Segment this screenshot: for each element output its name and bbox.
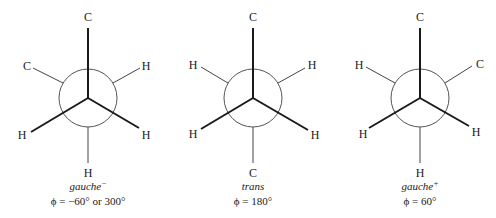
back-bond-upper-right [278,68,305,83]
atom-label-lower-left: H [18,128,27,142]
atom-label-lower-right: H [472,125,481,139]
atom-label-bottom: C [249,166,257,180]
back-bond-upper-left [366,67,395,83]
conformation-name-sign: − [101,179,106,188]
conformation-name-text: gauche [401,180,433,192]
atom-label-lower-left: H [189,127,198,141]
conformation-name-text: gauche [69,180,101,192]
back-bond-upper-left [33,68,63,83]
atom-label-upper-right: C [476,57,484,71]
newman-projection-gauche-minus: C C H H H H gauche− ϕ = −60° or 300° [18,10,151,207]
front-bond-lower-right [88,98,139,128]
atom-label-upper-right: H [142,59,151,73]
dihedral-angle-label: ϕ = −60° or 300° [51,195,126,207]
conformation-name-sign: + [433,179,438,188]
conformation-name: trans [242,180,265,192]
atom-label-lower-right: H [311,128,320,142]
conformation-name: gauche− [69,179,106,192]
conformation-name-text: trans [242,180,265,192]
atom-label-upper-left: H [355,58,364,72]
front-bond-lower-left [369,98,420,128]
atom-label-upper-right: H [308,58,317,72]
atom-label-lower-left: H [359,127,368,141]
dihedral-angle-label: ϕ = 60° [404,195,437,207]
atom-label-upper-left: H [189,58,198,72]
dihedral-angle-label: ϕ = 180° [234,195,272,207]
atom-label-upper-left: C [23,59,31,73]
atom-label-top: C [249,10,257,24]
back-bond-upper-right [445,66,472,83]
conformation-name: gauche+ [401,179,438,192]
back-bond-upper-right [113,68,140,83]
atom-label-top: C [416,10,424,24]
newman-projection-trans: C H H H H C trans ϕ = 180° [189,10,320,207]
back-bond-upper-left [201,67,228,83]
front-bond-lower-right [420,98,469,126]
newman-projections-figure: C C H H H H gauche− ϕ = −60° or 300° C H… [0,0,496,218]
atom-label-lower-right: H [142,128,151,142]
front-bond-lower-right [253,98,308,130]
atom-label-bottom: H [84,166,93,180]
atom-label-bottom: H [416,166,425,180]
newman-projection-gauche-plus: C H C H H H gauche+ ϕ = 60° [355,10,484,207]
front-bond-lower-left [201,98,253,129]
atom-label-top: C [84,10,92,24]
